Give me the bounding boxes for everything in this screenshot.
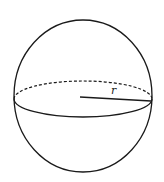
- sphere-outline: [14, 20, 152, 172]
- equator-front: [14, 99, 152, 117]
- equator-back-dashed: [14, 81, 152, 99]
- radius-line: [80, 97, 151, 101]
- sphere-diagram: r: [0, 0, 164, 182]
- radius-label: r: [111, 84, 117, 97]
